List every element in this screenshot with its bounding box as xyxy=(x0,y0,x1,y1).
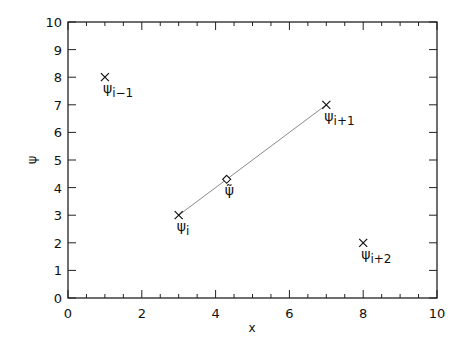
y-tick-label: 3 xyxy=(54,208,62,223)
y-tick-label: 1 xyxy=(54,263,62,278)
y-axis-label: ψ xyxy=(24,156,39,165)
y-tick-label: 9 xyxy=(54,43,62,58)
data-lines xyxy=(179,105,327,215)
y-tick-label: 4 xyxy=(54,181,62,196)
point-label: ψ̃ xyxy=(225,182,234,198)
x-tick-label: 10 xyxy=(429,306,446,321)
x-tick-label: 2 xyxy=(138,306,146,321)
point-label: ψi+1 xyxy=(324,108,354,128)
point-label: ψi xyxy=(177,218,190,238)
point-label: ψi+2 xyxy=(361,246,391,266)
y-tick-label: 6 xyxy=(54,125,62,140)
x-tick-label: 6 xyxy=(285,306,293,321)
y-tick-label: 8 xyxy=(54,70,62,85)
chart: 0246810012345678910 ψi−1ψiψi+1ψi+2ψ̃ x ψ xyxy=(0,0,453,352)
x-axis-label: x xyxy=(248,321,255,335)
data-markers: ψi−1ψiψi+1ψi+2ψ̃ xyxy=(101,73,392,266)
point-label: ψi−1 xyxy=(103,80,133,100)
x-tick-label: 8 xyxy=(359,306,367,321)
tick-labels: 0246810012345678910 xyxy=(45,15,445,321)
y-tick-label: 7 xyxy=(54,98,62,113)
y-tick-label: 10 xyxy=(45,15,62,30)
y-tick-label: 2 xyxy=(54,236,62,251)
y-tick-label: 0 xyxy=(54,291,62,306)
x-tick-label: 0 xyxy=(64,306,72,321)
x-tick-label: 4 xyxy=(211,306,219,321)
y-tick-label: 5 xyxy=(54,153,62,168)
interpolation-line xyxy=(179,105,327,215)
